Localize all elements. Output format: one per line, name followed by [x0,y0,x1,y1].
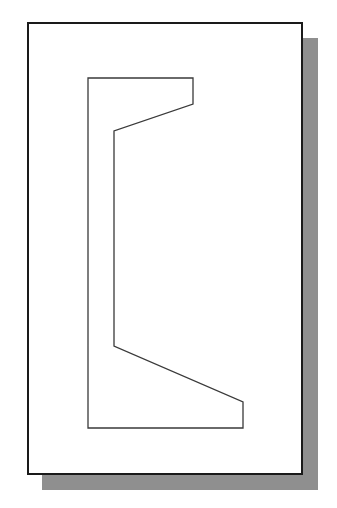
channel-profile-drawing [0,0,337,508]
drawing-canvas [0,0,337,508]
channel-section-outline [88,78,243,428]
